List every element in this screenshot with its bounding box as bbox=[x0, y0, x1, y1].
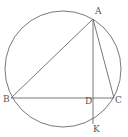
label-b: B bbox=[3, 94, 10, 104]
circumcircle bbox=[5, 11, 121, 127]
geometry-diagram: A B C D K bbox=[0, 0, 128, 137]
label-k: K bbox=[93, 124, 100, 134]
label-a: A bbox=[94, 6, 102, 16]
label-d: D bbox=[85, 96, 92, 106]
segment-ac bbox=[93, 19, 114, 98]
label-c: C bbox=[115, 95, 122, 105]
segment-ab bbox=[11, 19, 93, 98]
